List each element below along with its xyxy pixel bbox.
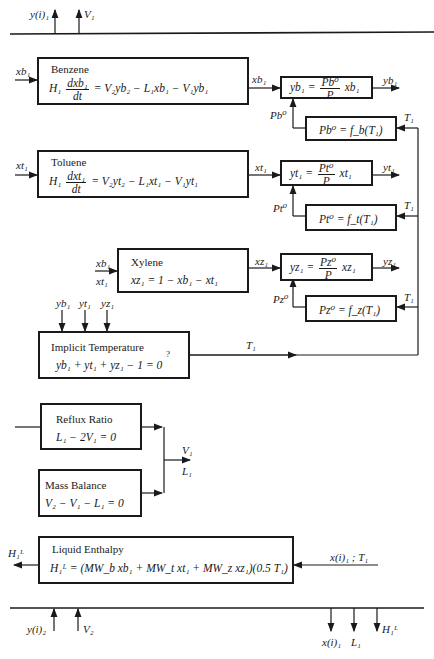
xylene-vle-eq: yz₁ = Pz⁰P xz₁ <box>290 256 356 281</box>
benzene-eq-rhs: = V₂yb₂ − L₁xb₁ − V₁yb₁ <box>94 82 209 94</box>
implicit-t1-output-label: T₁ <box>246 340 256 351</box>
toluene-t1-label: T₁ <box>404 200 414 211</box>
liquid-enthalpy-title: Liquid Enthalpy <box>52 543 124 555</box>
benzene-input-label: xb₁ <box>16 66 30 77</box>
toluene-vle-eq: yt₁ = Pt⁰P xt₁ <box>290 162 352 187</box>
toluene-title: Toluene <box>51 156 86 168</box>
xylene-input-xt-label: xt₁ <box>96 276 108 287</box>
liquid-enthalpy-block: Liquid Enthalpy H₁ᴸ = (MW_b xb₁ + MW_t x… <box>38 536 294 584</box>
liquid-enthalpy-equation: H₁ᴸ = (MW_b xb₁ + MW_t xt₁ + MW_z xz₁)(0… <box>50 562 288 574</box>
bottom-input-y-label: y(i)₂ <box>27 624 46 635</box>
reflux-equation: L₁ − 2V₁ = 0 <box>56 431 116 443</box>
xylene-output-label: xz₁ <box>255 256 268 267</box>
bottom-input-v-label: V₂ <box>83 624 94 635</box>
top-output-v-label: V₁ <box>84 9 95 20</box>
xylene-t1-label: T₁ <box>404 292 414 303</box>
xylene-title: Xylene <box>131 256 163 268</box>
implicit-temperature-block: Implicit Temperature yb₁ + yt₁ + yz₁ − 1… <box>38 331 190 379</box>
implicit-equation: yb₁ + yt₁ + yz₁ − 1 = 0 <box>56 359 162 371</box>
benzene-eq-lhs: H₁ <box>49 82 61 94</box>
toluene-vapor-output-label: yt₁ <box>383 162 395 173</box>
benzene-output-label: xb₁ <box>252 74 266 85</box>
xylene-input-xb-label: xb₁ <box>96 258 110 269</box>
xylene-pz0-label: Pz⁰ <box>273 294 288 305</box>
benzene-equation: H₁ dxb₁dt = V₂yb₂ − L₁xb₁ − V₁yb₁ <box>49 77 208 102</box>
mass-balance-equation: V₂ − V₁ − L₁ = 0 <box>45 497 124 509</box>
benzene-vapor-pressure-block: Pb⁰ = f_b(T₁) <box>305 116 397 141</box>
benzene-vle-eq: yb₁ = Pb⁰P xb₁ <box>290 76 360 101</box>
bottom-output-l-label: L₁ <box>351 637 361 648</box>
implicit-title: Implicit Temperature <box>51 341 144 353</box>
benzene-pb0-label: Pb⁰ <box>270 110 287 121</box>
benzene-vp-eq: Pb⁰ = f_b(T₁) <box>319 123 383 137</box>
combined-output-l1-label: L₁ <box>182 466 192 477</box>
benzene-vapor-output-label: yb₁ <box>383 75 397 86</box>
implicit-input-yz-label: yz₁ <box>101 298 114 309</box>
top-output-y-label: y(i)₁ <box>30 9 49 20</box>
toluene-equation: H₁ dxt₁dt = V₂yt₂ − L₁xt₁ − V₁yt₁ <box>49 170 198 195</box>
bottom-output-h-label: H₁ᴸ <box>382 624 398 635</box>
bottom-output-x-label: x(i)₁ <box>322 637 341 648</box>
xylene-equation: xz₁ = 1 − xb₁ − xt₁ <box>131 274 218 286</box>
benzene-derivative: dxb₁dt <box>66 77 89 102</box>
implicit-question-mark: ? <box>166 350 170 359</box>
enthalpy-output-label: H₁ᴸ <box>8 548 24 559</box>
toluene-input-label: xt₁ <box>16 160 28 171</box>
benzene-t1-label: T₁ <box>404 112 414 123</box>
mass-balance-block: Mass Balance V₂ − V₁ − L₁ = 0 <box>38 469 142 517</box>
toluene-pt0-label: Pt⁰ <box>273 203 287 214</box>
xylene-vle-block: yz₁ = Pz⁰P xz₁ <box>280 253 373 281</box>
toluene-output-label: xt₁ <box>255 162 267 173</box>
xylene-vapor-pressure-block: Pz⁰ = f_z(T₁) <box>305 295 397 322</box>
xylene-vapor-output-label: yz₁ <box>383 256 396 267</box>
toluene-vle-block: yt₁ = Pt⁰P xt₁ <box>280 160 373 186</box>
mass-balance-title: Mass Balance <box>45 479 106 491</box>
xylene-block: Xylene xz₁ = 1 − xb₁ − xt₁ <box>117 248 249 293</box>
combined-output-v1-label: V₁ <box>182 445 193 456</box>
xylene-vp-eq: Pz⁰ = f_z(T₁) <box>319 303 380 317</box>
enthalpy-input-label: x(i)₁ ; T₁ <box>330 552 368 563</box>
benzene-title: Benzene <box>51 63 89 75</box>
reflux-ratio-block: Reflux Ratio L₁ − 2V₁ = 0 <box>40 403 142 450</box>
benzene-vle-block: yb₁ = Pb⁰P xb₁ <box>280 76 373 99</box>
implicit-input-yt-label: yt₁ <box>79 298 91 309</box>
toluene-vapor-pressure-block: Pt⁰ = f_t(T₁) <box>305 204 397 231</box>
toluene-balance-block: Toluene H₁ dxt₁dt = V₂yt₂ − L₁xt₁ − V₁yt… <box>37 150 249 198</box>
toluene-vp-eq: Pt⁰ = f_t(T₁) <box>319 212 378 226</box>
benzene-balance-block: Benzene H₁ dxb₁dt = V₂yb₂ − L₁xb₁ − V₁yb… <box>37 57 249 105</box>
implicit-input-yb-label: yb₁ <box>56 298 70 309</box>
reflux-title: Reflux Ratio <box>56 413 113 425</box>
